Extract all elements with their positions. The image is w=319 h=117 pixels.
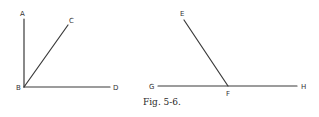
right-angle-diagram: E F G H (149, 10, 306, 98)
point-label-e: E (180, 10, 184, 18)
ray-bc (24, 25, 68, 87)
point-label-a: A (20, 10, 25, 18)
point-label-d: D (113, 84, 118, 92)
ray-fe (184, 20, 228, 86)
point-label-h: H (301, 83, 306, 91)
point-label-f: F (226, 90, 230, 98)
geometry-figure: A B C D E F G H Fig. 5-6. (0, 0, 319, 117)
left-angle-diagram: A B C D (16, 10, 118, 92)
point-label-c: C (69, 17, 74, 25)
point-label-b: B (16, 84, 21, 92)
point-label-g: G (149, 83, 154, 91)
figure-caption: Fig. 5-6. (143, 97, 181, 107)
